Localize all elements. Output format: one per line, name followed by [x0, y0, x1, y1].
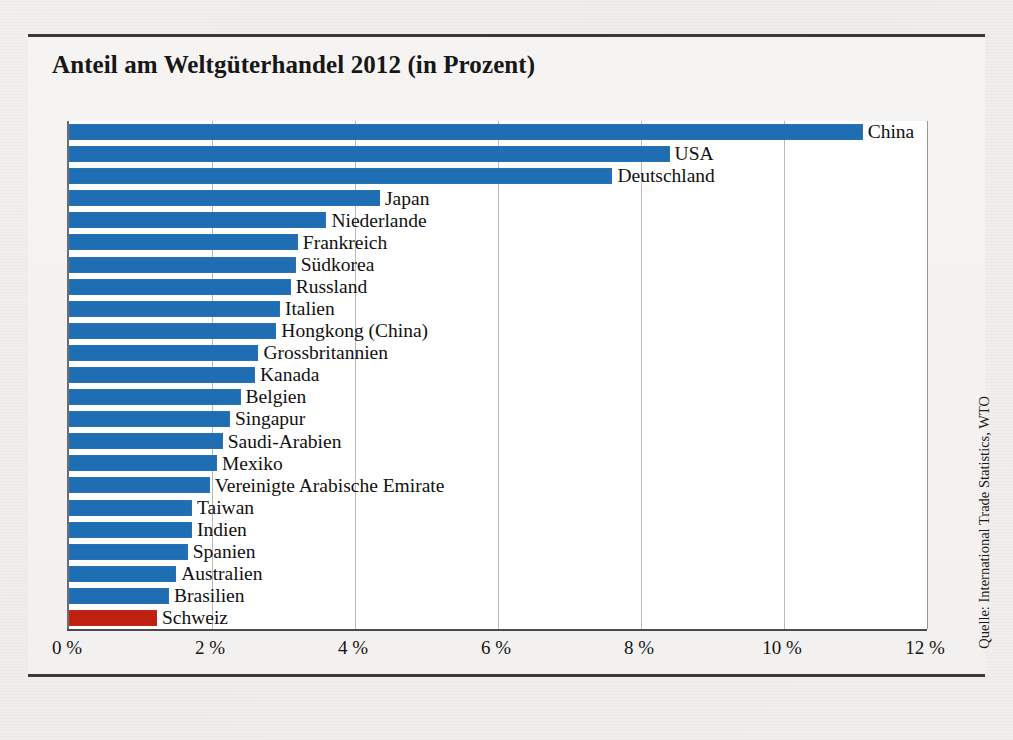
- bar: [69, 367, 255, 383]
- bar-row: Hongkong (China): [69, 323, 428, 339]
- bar: [69, 566, 176, 582]
- scanned-page-background: Anteil am Weltgüterhandel 2012 (in Proze…: [0, 0, 1013, 740]
- plot-area: ChinaUSADeutschlandJapanNiederlandeFrank…: [67, 121, 927, 629]
- bar-row: Russland: [69, 279, 367, 295]
- x-tick-label: 2 %: [195, 637, 225, 659]
- bar-row: Kanada: [69, 367, 319, 383]
- x-axis-ticks: 0 %2 %4 %6 %8 %10 %12 %: [67, 637, 925, 667]
- gridline-12: [927, 121, 928, 629]
- bar: [69, 190, 380, 206]
- bar-label: China: [863, 122, 915, 142]
- bar-row: Singapur: [69, 411, 305, 427]
- bar-label: Hongkong (China): [276, 321, 428, 341]
- bar-label: Taiwan: [192, 498, 254, 518]
- bar-row: Indien: [69, 522, 247, 538]
- x-axis-line: [67, 629, 927, 631]
- bar-row: Mexiko: [69, 455, 283, 471]
- bar-row: Niederlande: [69, 212, 427, 228]
- bar: [69, 168, 612, 184]
- bar-label: Australien: [176, 564, 262, 584]
- bar-row: Deutschland: [69, 168, 715, 184]
- x-tick-label: 10 %: [762, 637, 802, 659]
- bar: [69, 146, 670, 162]
- x-tick-label: 12 %: [905, 637, 945, 659]
- bar: [69, 212, 326, 228]
- bar-label: Russland: [291, 277, 368, 297]
- bar: [69, 544, 188, 560]
- bar: [69, 477, 210, 493]
- bar: [69, 345, 258, 361]
- bar-label: Singapur: [230, 409, 305, 429]
- bar: [69, 389, 241, 405]
- chart-figure: Anteil am Weltgüterhandel 2012 (in Proze…: [28, 34, 985, 677]
- bar-label: Saudi-Arabien: [223, 432, 342, 452]
- bar-row: USA: [69, 146, 714, 162]
- bar: [69, 124, 863, 140]
- bar-row: Schweiz: [69, 610, 228, 626]
- bar: [69, 588, 169, 604]
- bar-row: Frankreich: [69, 234, 387, 250]
- bar-row: Japan: [69, 190, 429, 206]
- bar-row: Australien: [69, 566, 262, 582]
- bar-row: Südkorea: [69, 257, 374, 273]
- bar-row: Italien: [69, 301, 335, 317]
- bar-row: Spanien: [69, 544, 256, 560]
- bar-label: Brasilien: [169, 586, 244, 606]
- bar: [69, 500, 192, 516]
- x-tick-label: 0 %: [52, 637, 82, 659]
- x-tick-label: 6 %: [481, 637, 511, 659]
- x-tick-label: 4 %: [338, 637, 368, 659]
- bar-label: Frankreich: [298, 233, 387, 253]
- page-title: Anteil am Weltgüterhandel 2012 (in Proze…: [52, 51, 535, 79]
- bar-row: Belgien: [69, 389, 306, 405]
- bar: [69, 455, 217, 471]
- bar-label: USA: [670, 144, 714, 164]
- bar: [69, 411, 230, 427]
- bar-row: Vereinigte Arabische Emirate: [69, 477, 444, 493]
- bar-row: Saudi-Arabien: [69, 433, 341, 449]
- bar-label: Südkorea: [296, 255, 375, 275]
- bar: [69, 522, 192, 538]
- bar-label: Vereinigte Arabische Emirate: [210, 476, 445, 496]
- bar-row: Grossbritannien: [69, 345, 388, 361]
- bar-row: China: [69, 124, 914, 140]
- bar: [69, 257, 296, 273]
- bar-label: Spanien: [188, 542, 256, 562]
- bar-label: Niederlande: [326, 211, 426, 231]
- bar-label: Deutschland: [612, 166, 714, 186]
- bar-label: Kanada: [255, 365, 320, 385]
- x-tick-label: 8 %: [624, 637, 654, 659]
- bar-label: Japan: [380, 189, 429, 209]
- bar: [69, 301, 280, 317]
- bar: [69, 323, 276, 339]
- bar-label: Indien: [192, 520, 247, 540]
- bar-row: Taiwan: [69, 500, 254, 516]
- bar-label: Grossbritannien: [258, 343, 388, 363]
- bar: [69, 279, 291, 295]
- bar-label: Mexiko: [217, 454, 283, 474]
- bar-series: ChinaUSADeutschlandJapanNiederlandeFrank…: [69, 121, 927, 629]
- source-credit: Quelle: International Trade Statistics, …: [976, 396, 993, 649]
- bar-label: Italien: [280, 299, 335, 319]
- bar-highlight: [69, 610, 157, 626]
- bar-label: Schweiz: [157, 608, 228, 628]
- bar: [69, 234, 298, 250]
- bar-row: Brasilien: [69, 588, 245, 604]
- bar-label: Belgien: [241, 387, 307, 407]
- bar: [69, 433, 223, 449]
